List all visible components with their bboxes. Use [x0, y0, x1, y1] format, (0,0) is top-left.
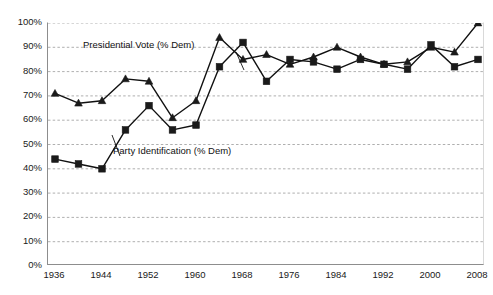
data-point-square	[263, 78, 270, 85]
data-point-square	[287, 56, 294, 63]
x-tick-label: 1960	[184, 270, 205, 280]
x-axis-tick-labels: 1936194419521960196819761984199220002008	[47, 270, 484, 288]
data-point-triangle	[216, 34, 224, 41]
y-tick-label: 60%	[0, 114, 42, 124]
data-point-square	[451, 63, 458, 70]
y-tick-label: 40%	[0, 163, 42, 173]
data-point-square	[169, 127, 176, 134]
annotation-party-identification: Party Identification (% Dem)	[113, 146, 231, 156]
data-point-square	[310, 59, 317, 66]
data-point-square	[99, 166, 106, 173]
data-point-square	[428, 42, 435, 49]
data-point-square	[240, 39, 247, 46]
annotation-presidential-vote: Presidential Vote (% Dem)	[83, 40, 194, 50]
x-tick-label: 1944	[90, 270, 111, 280]
x-tick-label: 2000	[419, 270, 440, 280]
y-tick-label: 0%	[0, 260, 42, 270]
data-point-triangle	[51, 89, 59, 96]
data-point-square	[75, 161, 82, 168]
data-point-square	[122, 127, 129, 134]
y-tick-label: 70%	[0, 90, 42, 100]
y-tick-label: 20%	[0, 212, 42, 222]
x-tick-label: 2008	[466, 270, 487, 280]
data-point-square	[193, 122, 200, 129]
data-point-square	[357, 56, 364, 63]
plot-area	[47, 22, 484, 265]
x-tick-label: 1952	[137, 270, 158, 280]
data-point-triangle	[122, 75, 130, 82]
y-axis-tick-labels: 0%10%20%30%40%50%60%70%80%90%100%	[0, 22, 42, 265]
y-tick-label: 50%	[0, 139, 42, 149]
data-point-square	[146, 102, 153, 109]
x-tick-label: 1936	[43, 270, 64, 280]
x-tick-label: 1992	[372, 270, 393, 280]
data-point-triangle	[404, 58, 412, 65]
x-tick-label: 1984	[325, 270, 346, 280]
x-tick-label: 1976	[278, 270, 299, 280]
y-tick-label: 90%	[0, 42, 42, 52]
annotation-leader-lines	[112, 52, 244, 156]
y-tick-label: 100%	[0, 17, 42, 27]
series-line	[55, 23, 478, 118]
data-point-triangle	[333, 43, 341, 50]
data-point-triangle	[474, 23, 482, 26]
data-point-square	[381, 61, 388, 68]
data-point-triangle	[263, 51, 271, 58]
data-point-square	[404, 66, 411, 73]
y-tick-label: 30%	[0, 187, 42, 197]
x-tick-label: 1968	[231, 270, 252, 280]
data-point-square	[52, 156, 59, 163]
y-tick-label: 80%	[0, 66, 42, 76]
data-point-triangle	[192, 97, 200, 104]
data-point-square	[475, 56, 482, 63]
chart-container: 0%10%20%30%40%50%60%70%80%90%100% 193619…	[0, 0, 493, 295]
y-tick-label: 10%	[0, 236, 42, 246]
data-point-square	[216, 63, 223, 70]
data-point-square	[334, 66, 341, 73]
